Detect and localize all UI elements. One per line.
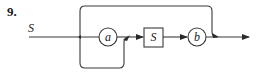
node-S-label: S <box>151 30 157 44</box>
bypass-loop-bottom <box>80 37 128 68</box>
node-a-label: a <box>105 30 111 44</box>
syntax-diagram: a S b <box>0 0 264 75</box>
merge-arrow-bottom <box>123 35 130 41</box>
node-b-label: b <box>194 30 200 44</box>
